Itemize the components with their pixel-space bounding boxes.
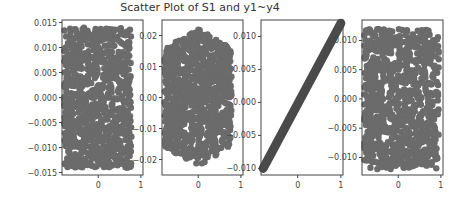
y-tick-label: −0.02: [132, 156, 157, 165]
y-tick-label: −0.010: [327, 153, 357, 162]
y-tick-label: 0.005: [334, 66, 357, 75]
y-tick-label: −0.005: [226, 131, 256, 140]
figure: Scatter Plot of S1 and y1~y4 0.0150.0100…: [0, 0, 457, 197]
y-tick-label: 0.00: [139, 94, 157, 103]
y-tick-label: 0.000: [34, 94, 57, 103]
y-tick-label: −0.010: [226, 164, 256, 173]
y-tick-label: 0.010: [334, 36, 357, 45]
y-tick-label: 0.005: [233, 65, 256, 74]
y-tick-label: 0.015: [34, 19, 57, 28]
plot-area: 0.0150.0100.0050.000−0.005−0.010−0.01501…: [0, 0, 457, 197]
x-tick-label: 1: [138, 181, 143, 190]
x-tick-label: 1: [438, 181, 443, 190]
y-tick-label: −0.005: [27, 119, 57, 128]
subplot-y1: 0.0150.0100.0050.000−0.005−0.010−0.01501: [27, 19, 143, 191]
x-tick-label: 0: [196, 181, 201, 190]
y-tick-label: 0.010: [233, 32, 256, 41]
y-tick-label: −0.010: [27, 144, 57, 153]
y-tick-label: −0.015: [27, 169, 57, 178]
x-tick-label: 0: [295, 181, 300, 190]
x-tick-label: 1: [338, 181, 343, 190]
y-tick-label: 0.01: [139, 63, 157, 72]
y-tick-label: 0.000: [334, 95, 357, 104]
y-tick-label: 0.010: [34, 44, 57, 53]
x-tick-label: 1: [238, 181, 243, 190]
subplot-y3: 0.0100.0050.000−0.005−0.01001: [226, 20, 343, 190]
subplot-y4: 0.0100.0050.000−0.005−0.01001: [327, 20, 443, 190]
y-tick-label: 0.02: [139, 32, 157, 41]
y-tick-label: 0.005: [34, 69, 57, 78]
y-tick-label: 0.000: [233, 98, 256, 107]
x-tick-label: 0: [96, 181, 101, 190]
x-tick-label: 0: [396, 181, 401, 190]
y-tick-label: −0.005: [327, 124, 357, 133]
y-tick-label: −0.01: [132, 125, 157, 134]
